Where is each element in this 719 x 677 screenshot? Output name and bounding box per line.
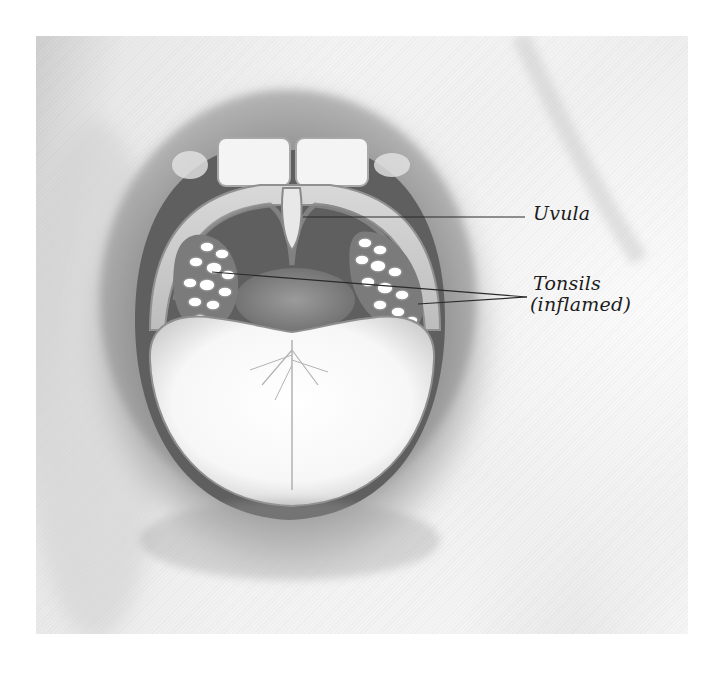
uvula-label: Uvula	[533, 203, 590, 224]
tonsils-inflamed-label: (inflamed)	[530, 294, 631, 315]
tonsils-label: Tonsils	[533, 273, 601, 294]
illustration-frame: Uvula Tonsils (inflamed)	[36, 36, 688, 634]
mouth-illustration	[36, 36, 688, 634]
